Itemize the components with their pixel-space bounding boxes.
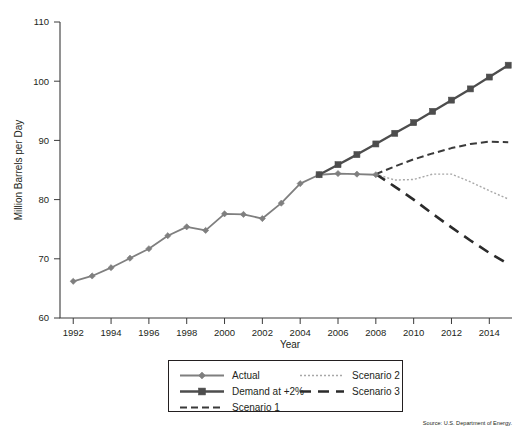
y-tick-label: 100 (33, 76, 49, 87)
plot-background (60, 22, 512, 318)
chart-svg: 60708090100110 1992199419961998200020022… (0, 0, 530, 440)
x-tick-label: 1998 (176, 327, 197, 338)
x-axis-title: Year (280, 339, 301, 350)
x-tick-label: 2012 (441, 327, 462, 338)
series-marker-demand (448, 97, 454, 103)
x-tick-label: 1996 (138, 327, 159, 338)
source-note: Source: U.S. Department of Energy. (423, 420, 513, 426)
y-tick-label: 110 (34, 16, 49, 27)
series-marker-demand (505, 62, 511, 68)
y-tick-label: 70 (38, 253, 49, 264)
legend-label-demand-at-2: Demand at +2% (232, 386, 304, 397)
x-tick-label: 1992 (63, 327, 84, 338)
legend-label-scenario-3: Scenario 3 (352, 386, 400, 397)
series-marker-demand (392, 130, 398, 136)
x-tick-labels: 1992199419961998200020022004200620082010… (63, 327, 500, 338)
series-marker-demand (486, 74, 492, 80)
series-marker-demand (411, 120, 417, 126)
x-tick-label: 2000 (214, 327, 235, 338)
x-tick-label: 2010 (403, 327, 424, 338)
legend-label-actual: Actual (232, 370, 260, 381)
x-tick-label: 2004 (290, 327, 311, 338)
legend: ActualDemand at +2%Scenario 1Scenario 2S… (169, 361, 403, 414)
x-tick-marks (73, 318, 489, 324)
series-marker-demand (430, 108, 436, 114)
chart-figure: 60708090100110 1992199419961998200020022… (0, 0, 530, 440)
legend-label-scenario-2: Scenario 2 (352, 370, 400, 381)
y-axis-title: Million Barrels per Day (13, 120, 24, 221)
legend-label-scenario-1: Scenario 1 (232, 402, 280, 413)
legend-marker-demand-at-2 (199, 388, 206, 395)
series-marker-demand (316, 172, 322, 178)
x-tick-label: 2014 (479, 327, 500, 338)
y-tick-marks (54, 22, 60, 318)
x-tick-label: 2008 (365, 327, 386, 338)
series-marker-demand (373, 141, 379, 147)
series-marker-demand (467, 86, 473, 92)
y-tick-label: 60 (38, 312, 49, 323)
x-tick-label: 1994 (100, 327, 121, 338)
x-tick-label: 2006 (327, 327, 348, 338)
y-tick-label: 80 (38, 194, 49, 205)
x-tick-label: 2002 (252, 327, 273, 338)
y-tick-labels: 60708090100110 (33, 16, 49, 323)
series-marker-demand (354, 152, 360, 158)
y-tick-label: 90 (38, 135, 49, 146)
series-marker-demand (335, 162, 341, 168)
